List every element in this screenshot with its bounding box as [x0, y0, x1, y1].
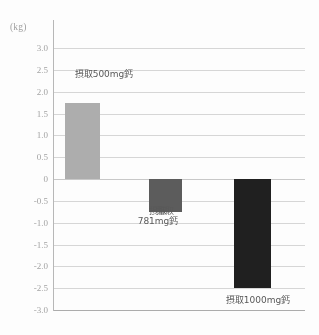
- y-tick--3.0: -3.0: [4, 305, 48, 315]
- bar-label-781mg-ghost: 摂取: [156, 206, 174, 216]
- gridline-2.0: [54, 92, 305, 93]
- chart-canvas: (kg) 3.0 2.5 2.0 1.5 1.0 0.5 0 -0.5 -1.0…: [0, 0, 319, 335]
- bar-label-781mg-overlap: 摂取 摂取: [149, 206, 167, 216]
- y-tick-2.0: 2.0: [4, 87, 48, 97]
- bar-500mg: [65, 103, 100, 179]
- y-tick--0.5: -0.5: [4, 196, 48, 206]
- y-tick-0: 0: [4, 174, 48, 184]
- y-tick--1.5: -1.5: [4, 240, 48, 250]
- gridline-3.0: [54, 48, 305, 49]
- bar-label-781mg: 摂取 摂取 781mg鈣: [120, 206, 196, 227]
- y-axis-tick-labels: 3.0 2.5 2.0 1.5 1.0 0.5 0 -0.5 -1.0 -1.5…: [0, 48, 48, 310]
- y-axis-unit-label: (kg): [10, 22, 27, 32]
- bar-label-1000mg: 摂取1000mg鈣: [205, 295, 311, 305]
- y-tick-2.5: 2.5: [4, 65, 48, 75]
- bar-label-781mg-line2: 781mg鈣: [120, 216, 196, 226]
- bar-1000mg: [234, 179, 271, 288]
- bar-chart: (kg) 3.0 2.5 2.0 1.5 1.0 0.5 0 -0.5 -1.0…: [0, 0, 319, 335]
- plot-area: [54, 48, 305, 310]
- bar-label-500mg-text: 摂取500mg鈣: [75, 69, 134, 79]
- gridline--3.0-baseline: [54, 310, 305, 311]
- bar-label-1000mg-text: 摂取1000mg鈣: [226, 295, 290, 305]
- y-tick-3.0: 3.0: [4, 43, 48, 53]
- bar-label-500mg: 摂取500mg鈣: [56, 69, 152, 79]
- y-tick--2.0: -2.0: [4, 261, 48, 271]
- y-tick-0.5: 0.5: [4, 152, 48, 162]
- y-tick--1.0: -1.0: [4, 218, 48, 228]
- y-tick--2.5: -2.5: [4, 283, 48, 293]
- y-tick-1.0: 1.0: [4, 130, 48, 140]
- y-tick-1.5: 1.5: [4, 109, 48, 119]
- gridline--2.5: [54, 288, 305, 289]
